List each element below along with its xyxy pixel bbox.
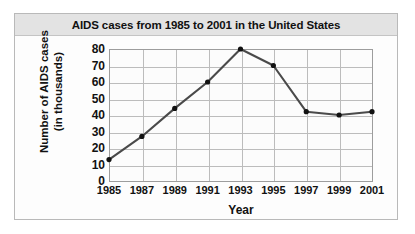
x-axis-tick-label: 1997 — [294, 185, 318, 196]
y-axis-tick-label: 70 — [79, 60, 105, 72]
data-point-marker — [271, 63, 276, 68]
x-axis-tick-label: 1995 — [261, 185, 285, 196]
x-axis-tick-label: 1991 — [195, 185, 219, 196]
line-series-layer — [109, 49, 373, 182]
data-point-marker — [369, 109, 374, 114]
chart-title-band: AIDS cases from 1985 to 2001 in the Unit… — [15, 14, 397, 36]
chart-panel: AIDS cases from 1985 to 2001 in the Unit… — [14, 13, 398, 220]
data-point-marker — [139, 134, 144, 139]
y-axis-tick-label: 60 — [79, 76, 105, 88]
y-axis-tick-label: 80 — [79, 43, 105, 55]
data-point-marker — [205, 79, 210, 84]
page-title: AIDS cases from 1985 to 2001 in the Unit… — [72, 19, 341, 31]
y-axis-tick-label: 30 — [79, 126, 105, 138]
aids-cases-markers — [106, 46, 374, 162]
data-point-marker — [106, 157, 111, 162]
x-axis-tick-label: 1985 — [97, 185, 121, 196]
data-point-marker — [172, 106, 177, 111]
y-axis-tick-label: 10 — [79, 159, 105, 171]
y-axis-title-line1: Number of AIDS cases — [38, 22, 52, 162]
y-axis-title-line2: (in thousands) — [52, 22, 66, 162]
x-axis-tick-label: 2001 — [360, 185, 384, 196]
data-point-marker — [238, 46, 243, 51]
y-axis-tick-labels: 80706050403020100 — [75, 49, 105, 182]
y-axis-title: Number of AIDS cases (in thousands) — [38, 22, 65, 162]
aids-cases-line — [109, 49, 372, 160]
y-axis-tick-label: 40 — [79, 109, 105, 121]
y-axis-tick-label: 20 — [79, 142, 105, 154]
x-axis-tick-label: 1989 — [163, 185, 187, 196]
x-axis-tick-label: 1987 — [130, 185, 154, 196]
x-axis-tick-label: 1993 — [228, 185, 252, 196]
chart-figure: AIDS cases from 1985 to 2001 in the Unit… — [0, 0, 415, 234]
data-point-marker — [337, 112, 342, 117]
x-axis-title: Year — [109, 203, 373, 217]
x-axis-tick-label: 1999 — [327, 185, 351, 196]
y-axis-tick-label: 50 — [79, 93, 105, 105]
x-axis-tick-labels: 198519871989199119931995199719992001 — [109, 185, 373, 201]
data-point-marker — [304, 109, 309, 114]
